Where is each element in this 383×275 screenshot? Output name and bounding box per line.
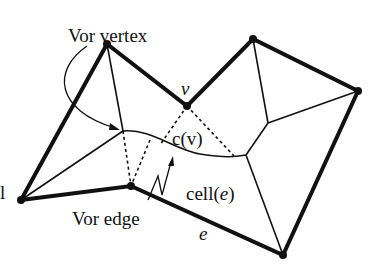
cut-off-text: l [0,182,5,203]
c-v-label: c(v) [172,128,203,150]
arrow-head-icon [168,156,174,166]
cell-e-label: cell(e) [186,183,235,205]
arrow-head-icon [109,123,120,130]
cell-suffix: ) [228,183,234,205]
v-label: v [181,78,190,99]
cell-prefix: cell( [186,183,220,205]
voronoi-diagram: Vor vertex v c(v) cell(e) Vor edge e l [0,0,383,275]
vor-edge-label: Vor edge [72,208,140,229]
cell-arg: e [220,183,228,204]
vor-vertex-arrow [64,46,120,130]
vor-vertex-label: Vor vertex [68,25,148,46]
e-label: e [199,223,207,244]
